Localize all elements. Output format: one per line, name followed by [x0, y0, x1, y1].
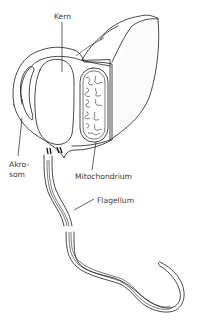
leader-lines [18, 22, 96, 210]
label-kern: Kern [54, 12, 71, 21]
akrosom-leader-line [18, 118, 22, 156]
label-flagellum: Flagellum [97, 196, 134, 205]
label-mitochondrium: Mitochondrium [75, 172, 132, 181]
sperm-head [13, 15, 159, 158]
label-akrosom-1: Akro- [9, 160, 29, 169]
flagellum-leader-line [74, 199, 94, 210]
mitochondrium-leader-line [92, 142, 96, 170]
nucleus [35, 59, 74, 144]
acrosome [20, 67, 34, 120]
mitochondrion [80, 68, 108, 142]
sperm-cell-diagram: Kern Akro- som Mitochondrium Flagellum [0, 0, 198, 335]
label-akrosom-2: som [9, 170, 25, 179]
